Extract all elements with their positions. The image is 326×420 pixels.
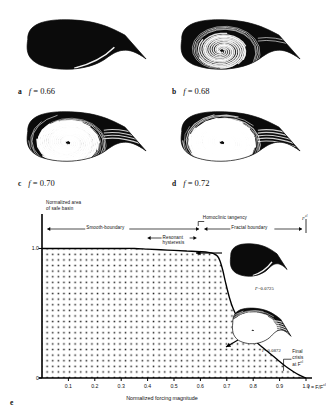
x-tick-label-4: 0.5 bbox=[168, 383, 180, 389]
inset-caption-smooth: F=0.0725 bbox=[255, 286, 274, 292]
inset-basin-smooth bbox=[230, 244, 287, 277]
inset-caption-fractal: F=0.0872 bbox=[262, 348, 281, 354]
panel-letter-b: b bbox=[172, 87, 176, 96]
x-tick-label-3: 0.4 bbox=[142, 383, 154, 389]
x-tick-label-6: 0.7 bbox=[221, 383, 233, 389]
panel-caption-a: af = 0.66 bbox=[18, 86, 55, 96]
basin-image-a bbox=[18, 14, 148, 78]
x-tick-label-8: 0.9 bbox=[274, 383, 286, 389]
annotation-fractal-boundary: Fractal boundary bbox=[231, 225, 267, 231]
annotation-smooth-boundary: Smooth-boundary bbox=[86, 225, 124, 231]
panel-equation-d: f = 0.72 bbox=[183, 178, 209, 188]
y-axis-label: Normalized areaof safe basin bbox=[46, 200, 81, 211]
x-tick-label-1: 0.2 bbox=[89, 383, 101, 389]
panel-letter-a: a bbox=[18, 87, 22, 96]
panel-letter-c: c bbox=[18, 179, 21, 188]
panel-equation-c: f = 0.70 bbox=[28, 178, 54, 188]
annotation-fcl-marker: Fcl bbox=[302, 214, 308, 221]
panel-caption-c: cf = 0.70 bbox=[18, 178, 55, 188]
annotation-final-crisis: Finalcrisisat Fcl bbox=[292, 349, 303, 368]
panel-equation-b: f = 0.68 bbox=[183, 86, 209, 96]
chart-panel-e: Normalized areaof safe basin Smooth-boun… bbox=[0, 196, 324, 420]
panel-equation-a: f = 0.66 bbox=[29, 86, 55, 96]
basin-image-d bbox=[172, 106, 302, 170]
basin-image-c bbox=[18, 106, 148, 170]
panel-letter-e: e bbox=[10, 398, 13, 407]
bracket-homoclinic-tangency bbox=[198, 222, 204, 227]
x-tick-label-2: 0.3 bbox=[115, 383, 127, 389]
basin-image-b bbox=[172, 14, 302, 78]
x-tick-label-5: 0.6 bbox=[194, 383, 206, 389]
x-tick-label-7: 0.8 bbox=[247, 383, 259, 389]
x-axis-title: Normalized forcing magnitude bbox=[0, 395, 324, 401]
annotation-resonant-hysteresis-line2: hysteresis bbox=[163, 240, 185, 246]
annotation-homoclinic-tangency: Homoclinic tangency bbox=[203, 215, 247, 221]
x-tick-label-0: 0.1 bbox=[62, 383, 74, 389]
panel-caption-d: df = 0.72 bbox=[172, 178, 209, 188]
panel-letter-d: d bbox=[172, 179, 176, 188]
panel-caption-b: bf = 0.68 bbox=[172, 86, 209, 96]
y-tick-label-1: 0 bbox=[26, 375, 39, 381]
x-axis-end-note: f = F/Fcl bbox=[308, 383, 326, 390]
y-tick-label-0: 1.0 bbox=[26, 245, 39, 251]
